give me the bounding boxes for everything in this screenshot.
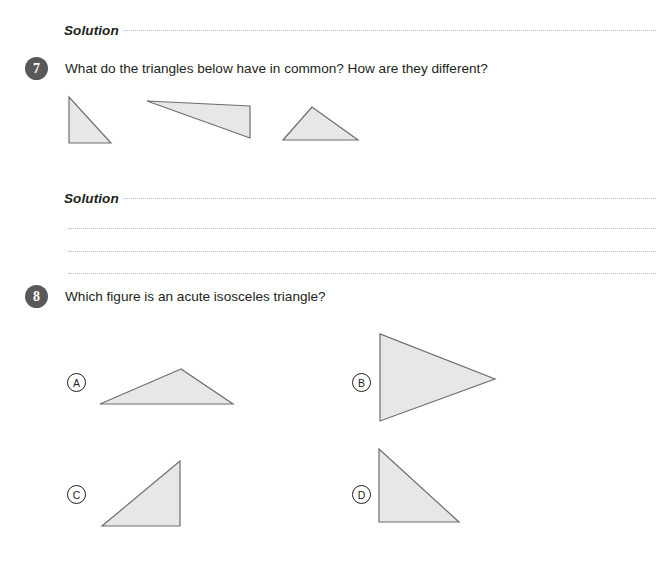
- question-text-7: What do the triangles below have in comm…: [65, 61, 488, 76]
- solution-line-1: Solution: [64, 22, 656, 38]
- figure-choice-c-triangle[interactable]: [101, 460, 184, 530]
- question-number-8: 8: [25, 285, 48, 308]
- solution-dotted-line: [123, 197, 656, 199]
- answer-line-2: [68, 227, 656, 229]
- answer-line-4: [68, 272, 656, 274]
- question-number-7: 7: [25, 57, 48, 80]
- figure-q7-obtuse-triangle: [146, 100, 254, 142]
- worksheet-page: Solution 7 What do the triangles below h…: [0, 0, 672, 581]
- choice-letter-d[interactable]: D: [352, 485, 371, 504]
- figure-choice-d-triangle[interactable]: [378, 448, 463, 526]
- choice-letter-a[interactable]: A: [67, 373, 86, 392]
- solution-label: Solution: [64, 23, 123, 38]
- solution-dotted-line: [123, 29, 656, 31]
- figure-q7-acute-triangle: [282, 106, 362, 144]
- answer-line-3: [68, 250, 656, 252]
- choice-letter-c[interactable]: C: [67, 485, 86, 504]
- figure-choice-b-triangle[interactable]: [379, 333, 499, 425]
- solution-line-2: Solution: [64, 190, 656, 206]
- figure-choice-a-triangle[interactable]: [99, 368, 237, 408]
- figure-q7-right-triangle: [68, 96, 114, 146]
- choice-letter-b[interactable]: B: [352, 373, 371, 392]
- solution-label: Solution: [64, 191, 123, 206]
- question-text-8: Which figure is an acute isosceles trian…: [65, 289, 326, 304]
